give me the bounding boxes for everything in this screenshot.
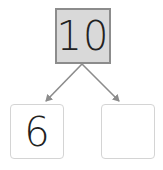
part-box-right-empty[interactable] <box>101 104 155 159</box>
arrow-left <box>46 64 82 101</box>
arrow-right <box>82 64 119 101</box>
part-box-left: 6 <box>10 104 64 159</box>
part-value-left: 6 <box>24 109 49 155</box>
whole-box: 10 <box>55 8 111 64</box>
whole-value: 10 <box>57 13 110 59</box>
